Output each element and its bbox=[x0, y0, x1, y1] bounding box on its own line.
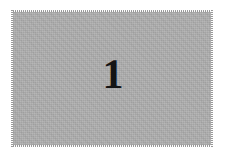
figure-number: 1 bbox=[12, 11, 212, 146]
figure-number-label: 1 bbox=[103, 54, 124, 96]
figure-canvas: 1 bbox=[0, 0, 225, 158]
gray-plate: 1 bbox=[12, 11, 212, 146]
